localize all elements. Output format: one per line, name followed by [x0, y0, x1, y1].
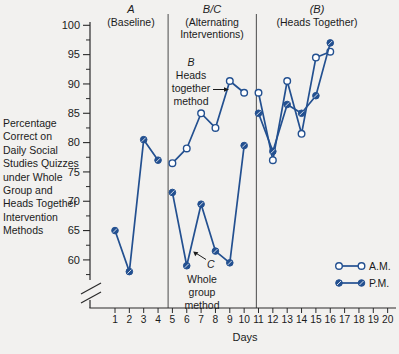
- y-axis-title-line: Intervention: [3, 211, 79, 224]
- x-tick-label: 20: [382, 314, 394, 325]
- phase-header-alternating: B/C (AlternatingInterventions): [180, 3, 244, 41]
- open-circle-marker: [284, 78, 291, 85]
- open-circle-marker: [270, 157, 277, 164]
- legend-label-pm: P.M.: [369, 277, 389, 289]
- x-tick-label: 6: [184, 314, 190, 325]
- x-tick-label: 19: [368, 314, 380, 325]
- x-tick-label: 2: [127, 314, 133, 325]
- annotation-heads-together: B Headstogethermethod: [172, 56, 211, 109]
- pm-series: [112, 40, 334, 275]
- series-segment: [115, 140, 158, 272]
- y-axis-title-line: Daily Social: [3, 144, 79, 157]
- phase-subtitle-alternating-line: Interventions): [180, 28, 244, 40]
- x-tick-label: 16: [325, 314, 337, 325]
- x-tick-label: 17: [339, 314, 351, 325]
- phase-subtitle-heads-together: (Heads Together): [277, 16, 358, 28]
- phase-letter-a: A: [107, 3, 154, 16]
- phase-subtitle-baseline-line: (Baseline): [107, 16, 154, 28]
- open-circle-marker: [212, 125, 219, 132]
- y-axis-title-line: Percentage: [3, 117, 79, 130]
- x-tick-label: 15: [310, 314, 322, 325]
- series-segment: [172, 146, 244, 266]
- phase-letter-b: (B): [277, 3, 358, 16]
- phase-subtitle-alternating: (AlternatingInterventions): [180, 16, 244, 41]
- y-tick-label: 100: [62, 19, 80, 31]
- phase-subtitle-alternating-line: (Alternating: [180, 16, 244, 28]
- open-circle-marker: [169, 160, 176, 167]
- phase-subtitle-baseline: (Baseline): [107, 16, 154, 28]
- x-tick-label: 7: [198, 314, 204, 325]
- x-tick-label: 8: [213, 314, 219, 325]
- x-tick-label: 4: [155, 314, 161, 325]
- annotation-b-text: Headstogethermethod: [172, 69, 211, 109]
- figure-container: 6065707580859095100123456789101112131415…: [0, 0, 399, 354]
- x-tick-label: 9: [227, 314, 233, 325]
- y-axis-title-line: Group and: [3, 184, 79, 197]
- x-tick-label: 3: [141, 314, 147, 325]
- x-tick-label: 1: [112, 314, 118, 325]
- y-axis-title-line: under Whole: [3, 171, 79, 184]
- annotation-c-text-line: method: [184, 299, 219, 312]
- x-tick-label: 5: [170, 314, 176, 325]
- y-axis-break-icon: [81, 283, 101, 303]
- x-tick-label: 18: [353, 314, 365, 325]
- open-circle-marker: [241, 89, 248, 96]
- open-circle-marker: [358, 263, 365, 270]
- x-axis: 1234567891011121314151617181920: [89, 308, 396, 325]
- open-circle-marker: [227, 78, 234, 85]
- y-axis-title-line: Heads Together: [3, 197, 79, 210]
- annotation-b-text-line: together: [172, 82, 211, 95]
- y-axis-title-line: Studies Quizzes: [3, 157, 79, 170]
- open-circle-marker: [255, 89, 262, 96]
- x-tick-label: 13: [282, 314, 294, 325]
- x-tick-label: 11: [253, 314, 264, 325]
- open-circle-marker: [336, 263, 343, 270]
- y-tick-label: 95: [68, 48, 80, 60]
- annotation-c-text: Wholegroupmethod: [184, 273, 219, 313]
- annotation-c-text-line: group: [184, 286, 219, 299]
- x-tick-label: 14: [296, 314, 308, 325]
- y-axis-title: PercentageCorrect onDaily SocialStudies …: [3, 117, 79, 238]
- annotation-b-text-line: Heads: [172, 69, 211, 82]
- x-tick-label: 12: [267, 314, 279, 325]
- annotation-b-text-line: method: [172, 95, 211, 108]
- phase-header-heads-together: (B) (Heads Together): [277, 3, 358, 28]
- whole-group-arrow: [197, 254, 207, 260]
- open-circle-marker: [298, 131, 305, 138]
- x-axis-label: Days: [200, 331, 290, 343]
- phase-header-baseline: A (Baseline): [107, 3, 154, 28]
- legend-label-am: A.M.: [369, 260, 391, 272]
- open-circle-marker: [313, 54, 320, 61]
- y-axis-title-line: Methods: [3, 224, 79, 237]
- annotation-c-letter: C: [207, 258, 215, 270]
- open-circle-marker: [183, 145, 190, 152]
- y-tick-label: 60: [68, 254, 80, 266]
- annotation-b-letter: B: [172, 56, 211, 69]
- annotation-c-text-line: Whole: [184, 273, 219, 286]
- open-circle-marker: [198, 110, 205, 117]
- phase-subtitle-heads-together-line: (Heads Together): [277, 16, 358, 28]
- phase-letter-bc: B/C: [180, 3, 244, 16]
- y-axis-title-line: Correct on: [3, 130, 79, 143]
- annotation-whole-group: Wholegroupmethod: [184, 273, 219, 313]
- x-tick-label: 10: [238, 314, 250, 325]
- legend: A.M.P.M.: [336, 260, 391, 289]
- y-tick-label: 90: [68, 78, 80, 90]
